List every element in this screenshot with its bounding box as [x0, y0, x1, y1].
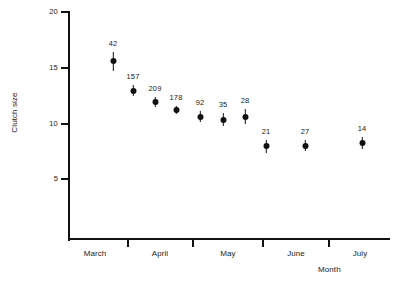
x-tick-label-april: April [152, 249, 169, 258]
data-point-marker [110, 58, 116, 64]
sample-size-label: 21 [262, 127, 271, 136]
y-axis-title: Clutch size [10, 78, 19, 148]
sample-size-label: 35 [219, 100, 228, 109]
sample-size-label: 14 [358, 124, 367, 133]
data-point-marker [152, 99, 158, 105]
data-point-marker [197, 114, 203, 120]
data-point-marker [302, 143, 308, 149]
data-point-marker [220, 117, 226, 123]
y-tick-label-20: 20 [30, 7, 58, 16]
x-tick-1 [192, 240, 194, 247]
y-tick-label-10: 10 [30, 119, 58, 128]
y-tick-20 [61, 11, 68, 13]
x-axis-title: Month [318, 265, 341, 274]
y-tick-15 [61, 67, 68, 69]
data-point-marker [242, 114, 248, 120]
sample-size-label: 27 [301, 127, 310, 136]
sample-size-label: 42 [109, 39, 118, 48]
y-tick-label-15: 15 [30, 63, 58, 72]
x-tick-0 [127, 240, 129, 247]
x-tick-3 [328, 240, 330, 247]
y-tick-10 [61, 123, 68, 125]
sample-size-label: 178 [169, 93, 182, 102]
x-tick-label-march: March [84, 249, 107, 258]
x-tick-label-may: May [220, 249, 235, 258]
data-point-marker [263, 143, 269, 149]
clutch-size-scatter-chart: 2015105 MarchAprilMayJuneJuly 4215720917… [0, 0, 400, 286]
x-tick-2 [262, 240, 264, 247]
sample-size-label: 157 [126, 72, 139, 81]
x-tick-label-july: July [353, 249, 368, 258]
y-tick-5 [61, 178, 68, 180]
sample-size-label: 209 [148, 84, 161, 93]
sample-size-label: 92 [196, 98, 205, 107]
y-axis-line [68, 11, 70, 241]
data-point-marker [173, 107, 179, 113]
x-tick-label-june: June [287, 249, 305, 258]
sample-size-label: 28 [241, 96, 250, 105]
x-axis-line [68, 238, 390, 240]
y-tick-label-5: 5 [30, 174, 58, 183]
data-point-marker [130, 88, 136, 94]
data-point-marker [359, 140, 365, 146]
